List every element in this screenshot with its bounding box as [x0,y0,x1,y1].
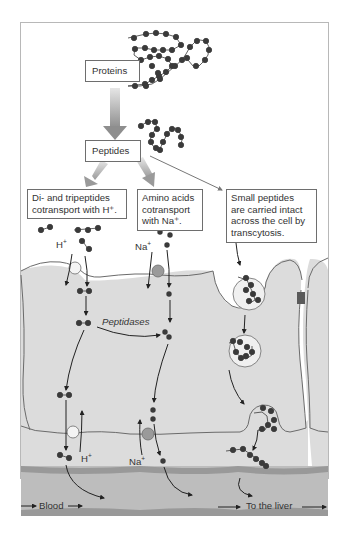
peptides-to-di-tripeptides-arrow [84,160,108,187]
na-plus-basolateral-label: Na+ [129,455,145,467]
blood-label: Blood [39,500,64,511]
na-symbol: Na [129,456,141,467]
na-cotransporter-apical [152,265,164,277]
h-antiporter-basolateral [67,426,79,438]
h-symbol: H [56,239,63,250]
proteins-box: Proteins [85,60,140,82]
na-transporter-basolateral [142,428,154,440]
peptides-to-small-peptides-arrow [150,156,222,190]
peptidases-label: Peptidases [102,316,149,327]
di-tripeptides-box: Di- and tripeptides cotransport with H⁺. [27,189,127,219]
peptide-chain-icon [138,119,183,152]
h-charge: + [63,238,67,245]
amino-acids-box: Amino acids cotransport with Na⁺. [137,189,203,231]
h-plus-basolateral-label: H+ [81,452,92,464]
na-charge: + [147,240,151,247]
protein-absorption-diagram [0,0,347,538]
protein-chain-icon [128,30,212,88]
na-plus-apical-label: Na+ [135,240,151,252]
proteins-to-peptides-arrow [103,88,127,140]
to-the-liver-label: To the liver [246,500,292,511]
na-charge: + [141,455,145,462]
small-peptides-box: Small peptides are carried intact across… [226,189,317,243]
h-plus-apical-label: H+ [56,238,67,250]
h-symbol: H [81,453,88,464]
h-charge: + [88,452,92,459]
na-symbol: Na [135,241,147,252]
peptides-box: Peptides [85,140,141,162]
tight-junction [297,292,305,304]
